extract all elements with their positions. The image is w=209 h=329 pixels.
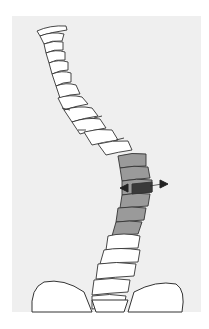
thoracic-vertebrae xyxy=(56,84,132,155)
arrow-right-icon xyxy=(160,180,168,188)
apical-curve-highlight xyxy=(112,153,152,236)
cervical-vertebrae xyxy=(37,26,71,86)
wedge-vertebra xyxy=(132,182,152,194)
spine-illustration xyxy=(0,0,209,329)
